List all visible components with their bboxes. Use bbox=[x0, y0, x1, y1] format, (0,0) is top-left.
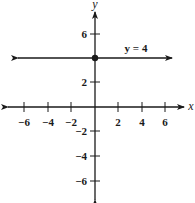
x-axis-label: x bbox=[187, 99, 194, 113]
coordinate-plane: −6 −4 −2 2 4 6 6 2 −2 −4 −6 y x y = 4 bbox=[0, 0, 195, 203]
equation-label: y = 4 bbox=[125, 42, 148, 54]
svg-text:−6: −6 bbox=[18, 116, 30, 128]
y-axis-label: y bbox=[91, 0, 98, 11]
svg-text:−4: −4 bbox=[75, 150, 87, 162]
svg-text:6: 6 bbox=[82, 28, 88, 40]
svg-text:2: 2 bbox=[115, 116, 121, 128]
svg-text:−4: −4 bbox=[42, 116, 54, 128]
y-intercept-point bbox=[92, 55, 98, 61]
svg-text:−6: −6 bbox=[75, 175, 87, 187]
x-tick-labels: −6 −4 −2 2 4 6 bbox=[18, 116, 168, 128]
svg-text:2: 2 bbox=[82, 76, 88, 88]
svg-text:6: 6 bbox=[162, 116, 168, 128]
svg-text:−2: −2 bbox=[75, 125, 87, 137]
svg-text:4: 4 bbox=[139, 116, 145, 128]
